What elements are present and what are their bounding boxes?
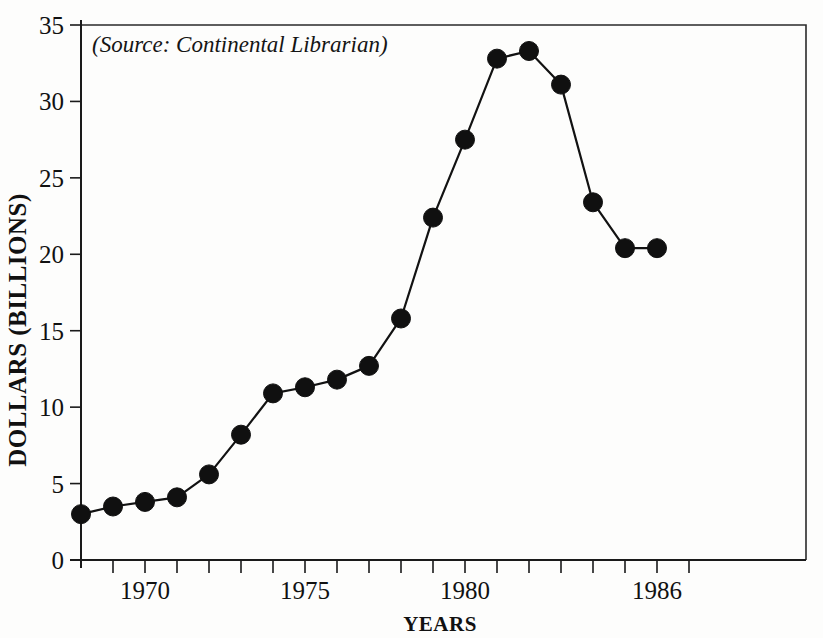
y-tick-label-30: 30 (39, 88, 64, 115)
data-point-1976 (328, 370, 347, 389)
data-point-1980 (456, 130, 475, 149)
y-tick-label-15: 15 (39, 318, 64, 345)
data-point-1975 (296, 378, 315, 397)
data-point-1981 (488, 49, 507, 68)
data-point-1982 (520, 41, 539, 60)
y-axis-tick-labels: 05101520253035 (39, 12, 64, 574)
y-tick-label-20: 20 (39, 241, 64, 268)
data-point-1973 (232, 425, 251, 444)
series-markers-dollars (72, 41, 667, 523)
data-point-1977 (360, 356, 379, 375)
x-tick-label-1986: 1986 (632, 577, 682, 604)
data-point-1984 (584, 193, 603, 212)
data-point-1974 (264, 384, 283, 403)
data-point-1971 (168, 488, 187, 507)
data-point-1979 (424, 208, 443, 227)
x-tick-label-1980: 1980 (440, 577, 490, 604)
frame-top-right (81, 25, 806, 560)
data-point-1970 (136, 492, 155, 511)
data-point-1972 (200, 465, 219, 484)
y-tick-label-35: 35 (39, 12, 64, 39)
y-axis-ticks (70, 25, 81, 560)
data-point-1983 (552, 75, 571, 94)
data-point-1968 (72, 505, 91, 524)
x-axis-ticks (113, 560, 689, 573)
data-point-1978 (392, 309, 411, 328)
chart-page: 05101520253035 1970197519801986 (Source:… (0, 0, 823, 638)
y-axis-label: DOLLARS (BILLIONS) (4, 193, 32, 467)
data-series-group (72, 41, 667, 523)
y-tick-label-25: 25 (39, 165, 64, 192)
plot-frame (70, 20, 806, 568)
x-tick-label-1975: 1975 (280, 577, 330, 604)
data-point-1969 (104, 497, 123, 516)
y-tick-label-5: 5 (52, 471, 65, 498)
y-tick-label-0: 0 (52, 547, 65, 574)
x-axis-tick-labels: 1970197519801986 (120, 577, 682, 604)
x-tick-label-1970: 1970 (120, 577, 170, 604)
x-axis-label: YEARS (403, 612, 477, 636)
series-line-dollars (81, 51, 657, 514)
source-annotation: (Source: Continental Librarian) (92, 32, 388, 57)
line-chart: 05101520253035 1970197519801986 (Source:… (0, 0, 823, 638)
data-point-1986 (648, 239, 667, 258)
y-tick-label-10: 10 (39, 394, 64, 421)
data-point-1985 (616, 239, 635, 258)
